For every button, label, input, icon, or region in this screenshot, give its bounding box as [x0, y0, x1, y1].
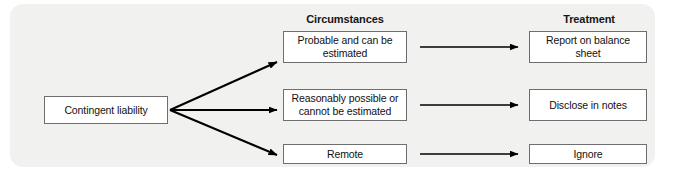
node-circumstance-3-label: Remote [327, 148, 363, 161]
node-treatment-3-label: Ignore [573, 148, 602, 161]
column-header-circumstances: Circumstances [306, 13, 384, 25]
arrow-source-to-circumstance-1 [170, 62, 277, 110]
node-circumstance-1: Probable and can be estimated [283, 31, 407, 63]
node-circumstance-3: Remote [283, 144, 407, 164]
node-treatment-2: Disclose in notes [529, 89, 647, 121]
node-circumstance-1-label: Probable and can be estimated [288, 34, 402, 60]
node-treatment-1-label: Report on balance sheet [534, 34, 642, 60]
arrow-source-to-circumstance-3 [170, 110, 277, 155]
node-circumstance-2-label: Reasonably possible or cannot be estimat… [288, 92, 402, 118]
node-contingent-liability: Contingent liability [44, 96, 168, 124]
column-header-treatment: Treatment [563, 13, 615, 25]
node-treatment-2-label: Disclose in notes [549, 99, 627, 112]
node-contingent-liability-label: Contingent liability [64, 104, 147, 117]
node-treatment-3: Ignore [529, 144, 647, 164]
contingent-liability-flow-diagram: Circumstances Treatment Contingent liabi… [0, 0, 679, 180]
node-circumstance-2: Reasonably possible or cannot be estimat… [283, 89, 407, 121]
node-treatment-1: Report on balance sheet [529, 31, 647, 63]
